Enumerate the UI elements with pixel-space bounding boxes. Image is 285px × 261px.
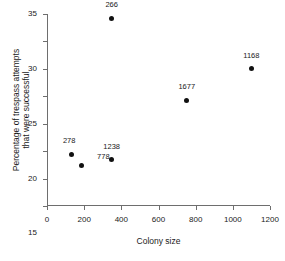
x-axis-title: Colony size <box>47 236 270 246</box>
data-point <box>109 16 114 21</box>
data-point-label: 278 <box>63 137 76 145</box>
y-axis-title: Percentage of trespass attempts that wer… <box>11 14 33 206</box>
data-point-label: 1238 <box>103 143 120 151</box>
plot-area: 05101520253035 020040060080010001200 278… <box>47 14 270 206</box>
data-point-label: 266 <box>105 1 118 9</box>
x-tick-label: 800 <box>189 216 202 224</box>
y-axis-title-line-2: that were successful <box>21 14 31 206</box>
x-tick-label: 0 <box>45 216 49 224</box>
data-point <box>79 163 84 168</box>
x-tick-label: 1200 <box>261 216 279 224</box>
y-tick: 15 <box>43 124 47 125</box>
y-tick: 30 <box>43 41 47 42</box>
scatter-plot-figure: 05101520253035 020040060080010001200 278… <box>0 0 285 261</box>
data-point-label: 1677 <box>178 83 195 91</box>
y-tick: 10 <box>43 151 47 152</box>
x-tick: 1200 <box>270 206 271 210</box>
x-tick-label: 600 <box>152 216 165 224</box>
y-tick: 5 <box>43 179 47 180</box>
x-tick-label: 200 <box>77 216 90 224</box>
x-tick-label: 1000 <box>224 216 242 224</box>
x-tick: 1000 <box>233 206 234 210</box>
x-tick-label: 400 <box>115 216 128 224</box>
data-point-label: 1168 <box>243 52 259 60</box>
y-axis-title-line-1: Percentage of trespass attempts <box>11 14 21 206</box>
data-point <box>184 98 189 103</box>
x-tick: 800 <box>196 206 197 210</box>
data-point-label: 778 <box>97 153 110 161</box>
y-axis-line <box>47 14 48 206</box>
x-tick: 200 <box>84 206 85 210</box>
data-point <box>69 152 74 157</box>
y-tick: 20 <box>43 96 47 97</box>
x-tick: 400 <box>121 206 122 210</box>
data-point <box>109 157 114 162</box>
x-tick: 600 <box>159 206 160 210</box>
y-tick-label: 15 <box>28 229 37 237</box>
data-point <box>249 66 254 71</box>
y-tick: 25 <box>43 69 47 70</box>
x-tick: 0 <box>47 206 48 210</box>
y-tick: 35 <box>43 14 47 15</box>
